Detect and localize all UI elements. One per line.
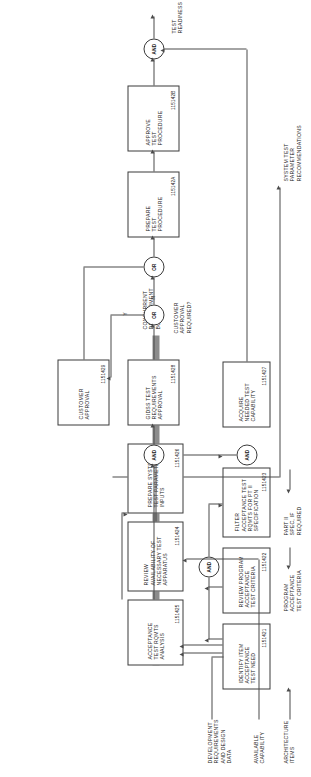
arrow-or-merge-to-prepare-procedure	[150, 235, 154, 239]
arrow-analysis-to-prepare-inputs	[123, 512, 127, 516]
box-refno: 115142B	[170, 90, 175, 109]
line-and-to-test-readiness	[153, 16, 154, 38]
box-gidss-test-requirements-approval[interactable]: GIDSS TEST REQUIREMENTS APPROVAL 1151428	[127, 359, 179, 425]
line-and-bottom-bus-right	[208, 504, 209, 556]
arrow-analysis-into-and-gidss	[150, 463, 154, 467]
arrow-to-recommendations	[276, 185, 280, 189]
input-label-part-ii-spec: PART II SPEC, IF REQUIRED	[282, 463, 301, 535]
arrow-test-readiness	[150, 14, 154, 18]
arrow-into-customer-approval	[106, 376, 110, 380]
box-identify-item-acceptance-test-need[interactable]: IDENTIFY ITEM ACCEPTANCE TEST NEED 11514…	[222, 623, 270, 689]
box-customer-approval[interactable]: CUSTOMER APPROVAL 1151429	[57, 359, 109, 425]
gate-and-acquire[interactable]: AND	[236, 444, 257, 465]
box-title: ACQUIRE NEEDED TEST CAPABILITY	[237, 366, 256, 421]
gate-and-gidss[interactable]: AND	[143, 444, 164, 465]
box-approve-test-procedure[interactable]: APPROVE TEST PROCEDURE 115142B	[127, 85, 179, 151]
line-or-yes-branch	[110, 314, 143, 315]
output-label-system-test-parameter-recommendations: SYSTEM TEST PARAMETER RECOMMENDATIONS	[282, 85, 301, 181]
gate-or-decision[interactable]: OR	[143, 304, 164, 325]
input-label-development-requirements: DEVELOPMENT REQUIREMENTS AND DESIGN DATA	[206, 691, 231, 763]
line-analysis-to-prepare-inputs	[121, 513, 122, 599]
box-acquire-needed-test-capability[interactable]: ACQUIRE NEEDED TEST CAPABILITY 1151427	[222, 361, 270, 427]
gate-label: AND	[244, 449, 249, 460]
box-refno: 1151427	[261, 366, 266, 385]
box-acceptance-test-rqmts-analysis[interactable]: ACCEPTANCE TEST RQMTS ANALYSIS 1151425	[127, 599, 183, 665]
line-available-capability-rail	[258, 559, 259, 719]
box-title: FILTER ACCEPTANCE TEST RQMTS FOR PT II S…	[233, 472, 258, 531]
line-1151422-to-analysis	[183, 644, 222, 645]
line-1151421-up	[208, 638, 222, 639]
line-or-no-branch	[153, 277, 154, 304]
arrow-1151423-to-part-ii-spec	[286, 489, 290, 493]
line-customer-approval-out	[83, 267, 84, 359]
input-label-architecture-items: ARCHITECTURE ITEMS	[282, 691, 295, 763]
line-gidss-to-or	[153, 325, 154, 359]
box-refno: 1151428	[170, 364, 175, 383]
box-refno: 1151423	[261, 472, 266, 491]
line-or-yes-to-customer	[110, 315, 111, 377]
box-review-availability-necessary-test-apparatus[interactable]: REVIEW AVAILABILITY OF NECESSARY TEST AP…	[127, 521, 183, 591]
arrow-available-capability-into-1151424	[182, 558, 186, 562]
line-dev-req-drop	[211, 656, 223, 657]
diagram-canvas: CONCURRENT DEVELOPMENT BOND IDENTIFY ITE…	[0, 0, 311, 777]
box-review-program-acceptance-test-criteria[interactable]: REVIEW PROGRAM ACCEPTANCE TEST CRITERIA …	[222, 547, 270, 613]
line-customer-approval-riser	[83, 266, 143, 267]
arrow-architecture-to-1151421	[286, 687, 290, 691]
gate-label: AND	[206, 561, 211, 572]
box-title: CUSTOMER APPROVAL	[77, 364, 90, 419]
gate-label: AND	[151, 43, 156, 54]
box-prepare-test-procedure[interactable]: PREPARE TEST PROCEDURE 115142A	[127, 171, 179, 237]
box-title: REVIEW PROGRAM ACCEPTANCE TEST CRITERIA	[237, 552, 256, 607]
line-acquire-to-test-readiness	[246, 49, 247, 361]
input-label-program-acceptance-test-criteria: PROGRAM ACCEPTANCE TEST CRITERIA	[282, 539, 301, 611]
arrow-and-to-1151423	[218, 503, 222, 507]
box-title: IDENTIFY ITEM ACCEPTANCE TEST NEED	[237, 628, 256, 683]
line-prepare-inputs-to-recommendations	[183, 476, 279, 477]
box-refno: 1151424	[174, 526, 179, 545]
line-prepare-to-approve-procedure	[153, 151, 154, 171]
line-or-merge-to-prepare-procedure	[153, 237, 154, 256]
line-approve-to-and	[153, 59, 154, 85]
box-refno: 1151429	[100, 364, 105, 383]
line-analysis-to-and-gidss	[153, 465, 154, 599]
line-program-criteria-to-1151422	[289, 547, 290, 565]
line-and-gidss-to-box	[153, 425, 154, 444]
line-dev-req-rail	[211, 657, 212, 719]
arrow-acquire-into-and	[160, 48, 164, 52]
output-label-test-readiness: TEST READINESS	[170, 0, 183, 33]
box-title: GIDSS TEST REQUIREMENTS APPROVAL	[144, 364, 163, 419]
gate-or-merge[interactable]: OR	[143, 256, 164, 277]
line-1151421-to-analysis	[183, 652, 222, 653]
box-refno: 1151425	[174, 604, 179, 623]
line-architecture-to-1151421	[289, 689, 290, 719]
gate-label: OR	[151, 263, 156, 271]
line-acquire-riser	[164, 48, 246, 49]
arrow-1151421-up	[204, 638, 208, 642]
box-refno: 1151426	[174, 448, 179, 467]
line-available-capability-riser	[186, 558, 258, 559]
box-title: ACCEPTANCE TEST RQMTS ANALYSIS	[146, 604, 165, 659]
arrow-1151421-to-analysis	[179, 652, 183, 656]
box-title: APPROVE TEST PROCEDURE	[144, 90, 163, 145]
box-refno: 115142A	[170, 176, 175, 195]
arrow-and-acquire-to-box	[218, 454, 222, 458]
gate-label: AND	[151, 449, 156, 460]
line-and-bottom-bus	[208, 577, 209, 639]
box-filter-acceptance-test-rqmts[interactable]: FILTER ACCEPTANCE TEST RQMTS FOR PT II S…	[222, 467, 270, 537]
box-title: PREPARE TEST PROCEDURE	[144, 176, 163, 231]
arrow-approve-to-and	[150, 57, 154, 61]
line-prepare-inputs-bus-riser	[112, 476, 127, 477]
box-title: REVIEW AVAILABILITY OF NECESSARY TEST AP…	[142, 526, 167, 585]
box-refno: 1151422	[261, 552, 266, 571]
line-1151424-out	[155, 465, 156, 521]
flowchart-rotated-layer: CONCURRENT DEVELOPMENT BOND IDENTIFY ITE…	[0, 0, 311, 777]
line-recommendations-rail	[279, 187, 280, 477]
arrow-and-gidss-to-box	[150, 423, 154, 427]
line-1151424-to-and-acquire	[183, 454, 236, 455]
line-1151423-to-part-ii-spec	[289, 469, 290, 489]
gate-label: OR	[151, 311, 156, 319]
arrow-or-no-to-merge	[150, 275, 154, 279]
arrow-prepare-to-approve-procedure	[150, 149, 154, 153]
line-1151422-up	[208, 586, 222, 587]
arrow-1151422-up	[204, 586, 208, 590]
